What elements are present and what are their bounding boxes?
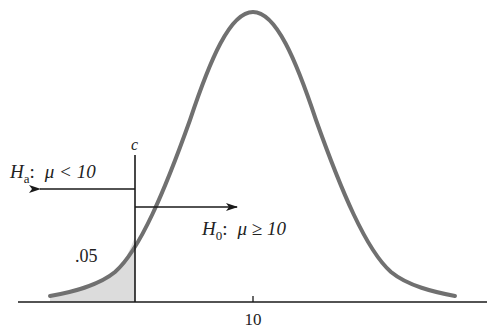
tail-area-label: .05 (75, 246, 98, 266)
critical-value-label: c (131, 136, 138, 153)
null-hypothesis-label: H0:μ ≥ 10 (201, 218, 286, 243)
normal-curve (50, 12, 455, 296)
ha-symbol: H (9, 161, 25, 182)
ha-separator: : (30, 161, 35, 182)
h0-separator: : (222, 218, 227, 239)
hypothesis-test-diagram: c Ha:μ < 10 H0:μ ≥ 10 .05 10 (0, 0, 487, 333)
x-tick-label-10: 10 (245, 310, 262, 329)
alternative-hypothesis-label: Ha:μ < 10 (9, 161, 96, 186)
h0-symbol: H (201, 218, 217, 239)
ha-statement: μ < 10 (44, 161, 96, 182)
h0-statement: μ ≥ 10 (237, 218, 287, 239)
